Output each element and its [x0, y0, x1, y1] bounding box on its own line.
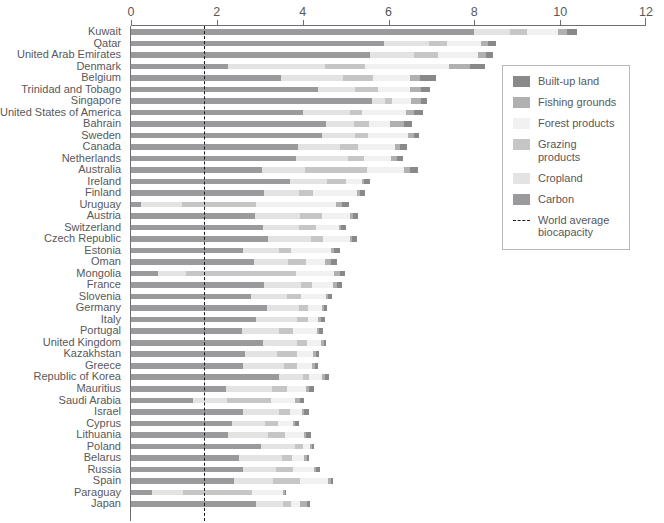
- bar-row: [131, 38, 646, 50]
- category-label: Finland: [0, 187, 126, 199]
- bar-segment-built-up-land: [295, 421, 299, 427]
- bar-segment-fishing-grounds: [478, 52, 487, 58]
- bar-segment-forest-products: [367, 167, 404, 173]
- bar-segment-built-up-land: [421, 87, 430, 93]
- bar-segment-cropland: [322, 133, 355, 139]
- bar-segment-forest-products: [307, 340, 321, 346]
- legend-item[interactable]: Built-up land: [513, 75, 621, 88]
- legend-label: Built-up land: [538, 75, 599, 88]
- bar-row: [131, 487, 646, 499]
- bar-row: [131, 441, 646, 453]
- stacked-bar: [131, 351, 319, 357]
- stacked-bar: [131, 490, 286, 496]
- bar-segment-carbon: [131, 386, 226, 392]
- bar-segment-grazing-products: [299, 305, 308, 311]
- stacked-bar: [131, 363, 318, 369]
- bar-segment-grazing-products: [299, 190, 313, 196]
- legend-swatch: [513, 118, 530, 129]
- legend-label: Carbon: [538, 193, 574, 206]
- bar-segment-cropland: [290, 179, 327, 185]
- bar-segment-forest-products: [296, 271, 334, 277]
- bar-segment-carbon: [131, 363, 243, 369]
- legend-swatch: [513, 173, 530, 184]
- bar-segment-grazing-products: [182, 202, 256, 208]
- bar-segment-carbon: [131, 52, 370, 58]
- bar-row: [131, 49, 646, 61]
- x-axis-tick-label: 6: [385, 6, 392, 19]
- bar-segment-cropland: [243, 363, 284, 369]
- legend-item[interactable]: Carbon: [513, 193, 621, 206]
- bar-segment-forest-products: [287, 386, 306, 392]
- stacked-bar: [131, 75, 436, 81]
- bar-segment-carbon: [131, 398, 193, 404]
- bar-row: [131, 325, 646, 337]
- bar-row: [131, 348, 646, 360]
- bar-segment-built-up-land: [360, 190, 365, 196]
- legend-item[interactable]: Cropland: [513, 172, 621, 185]
- stacked-bar: [131, 294, 332, 300]
- bar-segment-cropland: [243, 248, 280, 254]
- stacked-bar: [131, 179, 370, 185]
- bar-segment-built-up-land: [316, 467, 319, 473]
- legend: Built-up landFishing groundsForest produ…: [502, 65, 630, 250]
- bar-segment-built-up-land: [421, 98, 427, 104]
- bar-segment-cropland: [141, 202, 182, 208]
- bar-segment-built-up-land: [337, 282, 342, 288]
- stacked-bar: [131, 41, 496, 47]
- bar-row: [131, 498, 646, 510]
- bar-segment-built-up-land: [486, 52, 493, 58]
- bar-segment-forest-products: [308, 317, 318, 323]
- bar-segment-carbon: [131, 98, 372, 104]
- legend-item[interactable]: World average biocapacity: [513, 214, 621, 239]
- bar-segment-fishing-grounds: [449, 64, 470, 70]
- legend-label: World average biocapacity: [538, 214, 609, 239]
- bar-segment-cropland: [303, 110, 350, 116]
- bar-segment-forest-products: [291, 248, 331, 254]
- stacked-bar: [131, 501, 310, 507]
- bar-segment-built-up-land: [307, 455, 310, 461]
- bar-segment-cropland: [263, 340, 297, 346]
- bar-segment-carbon: [131, 144, 298, 150]
- bar-segment-carbon: [131, 374, 279, 380]
- bar-segment-grazing-products: [340, 144, 359, 150]
- bar-row: [131, 268, 646, 280]
- bar-segment-cropland: [254, 259, 288, 265]
- bar-segment-forest-products: [316, 225, 338, 231]
- x-axis: 024681012: [131, 0, 646, 26]
- bar-segment-forest-products: [527, 29, 559, 35]
- stacked-bar: [131, 236, 357, 242]
- bar-segment-forest-products: [378, 87, 410, 93]
- bar-segment-forest-products: [300, 478, 328, 484]
- bar-segment-carbon: [131, 455, 239, 461]
- legend-item[interactable]: Forest products: [513, 117, 621, 130]
- legend-dashed-line-marker: [513, 215, 530, 226]
- stacked-bar: [131, 340, 326, 346]
- bar-segment-built-up-land: [324, 340, 326, 346]
- bar-segment-forest-products: [303, 444, 310, 450]
- bar-segment-carbon: [131, 156, 296, 162]
- category-label: United Arab Emirates: [0, 49, 126, 61]
- bar-segment-forest-products: [252, 490, 283, 496]
- bar-segment-grazing-products: [284, 363, 298, 369]
- bar-segment-built-up-land: [307, 501, 310, 507]
- bar-segment-cropland: [372, 98, 385, 104]
- bar-segment-cropland: [256, 501, 283, 507]
- bar-segment-carbon: [131, 409, 243, 415]
- bar-segment-grazing-products: [279, 328, 294, 334]
- legend-item[interactable]: Fishing grounds: [513, 96, 621, 109]
- stacked-bar: [131, 444, 314, 450]
- bar-segment-forest-products: [293, 467, 314, 473]
- bar-segment-grazing-products: [276, 467, 293, 473]
- bar-row: [131, 360, 646, 372]
- category-label: Singapore: [0, 95, 126, 107]
- bar-segment-grazing-products: [299, 225, 316, 231]
- bar-segment-built-up-land: [324, 305, 327, 311]
- bar-segment-forest-products: [365, 64, 449, 70]
- bar-segment-carbon: [131, 282, 264, 288]
- legend-swatch: [513, 139, 530, 150]
- bar-segment-forest-products: [369, 121, 390, 127]
- bar-segment-cropland: [158, 271, 186, 277]
- legend-item[interactable]: Grazing products: [513, 138, 621, 163]
- x-axis-tick: [645, 18, 646, 26]
- bar-segment-grazing-products: [429, 41, 447, 47]
